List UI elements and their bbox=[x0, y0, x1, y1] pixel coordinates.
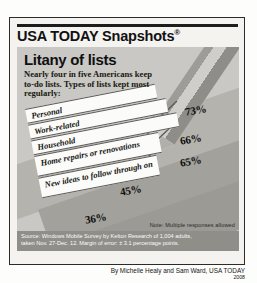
masthead-rule bbox=[17, 24, 238, 27]
headline-block: Litany of lists Nearly four in five Amer… bbox=[22, 50, 164, 99]
source-bar: Source: Windows Mobile Survey by Kelton … bbox=[17, 231, 239, 251]
graphic-canvas: Personal Work-related Household Home rep… bbox=[17, 47, 239, 231]
masthead-brand-text: USA TODAY Snapshots bbox=[17, 28, 174, 44]
infographic-page: USA TODAY Snapshots® bbox=[0, 0, 257, 283]
masthead-brand: USA TODAY Snapshots® bbox=[17, 28, 239, 45]
headline-subtitle: Nearly four in five Americans keep to-do… bbox=[24, 70, 156, 99]
source-line-2: taken Nov. 27-Dec. 12. Margin of error: … bbox=[21, 240, 235, 247]
chart-note: Note: Multiple responses allowed bbox=[150, 222, 235, 228]
byline-year: 2008 bbox=[9, 274, 245, 280]
registered-trademark-icon: ® bbox=[174, 28, 180, 37]
graphic-panel: Personal Work-related Household Home rep… bbox=[17, 47, 239, 231]
snapshot-card: USA TODAY Snapshots® bbox=[9, 17, 245, 265]
source-line-1: Source: Windows Mobile Survey by Kelton … bbox=[21, 233, 235, 240]
page-title: Litany of lists bbox=[24, 52, 164, 68]
